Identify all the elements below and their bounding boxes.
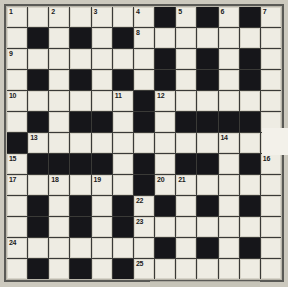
grid-cell[interactable]: 12 bbox=[155, 91, 175, 111]
grid-cell[interactable] bbox=[28, 238, 48, 258]
grid-cell[interactable] bbox=[261, 49, 281, 69]
grid-cell[interactable] bbox=[261, 238, 281, 258]
grid-cell[interactable]: 22 bbox=[134, 196, 154, 216]
grid-cell[interactable] bbox=[219, 238, 239, 258]
grid-cell[interactable]: 11 bbox=[113, 91, 133, 111]
grid-cell[interactable] bbox=[240, 28, 260, 48]
grid-cell[interactable] bbox=[240, 175, 260, 195]
grid-cell[interactable] bbox=[49, 196, 69, 216]
grid-cell[interactable] bbox=[197, 259, 217, 279]
grid-cell[interactable] bbox=[113, 112, 133, 132]
grid-cell[interactable] bbox=[197, 91, 217, 111]
grid-cell[interactable]: 3 bbox=[92, 7, 112, 27]
grid-cell[interactable] bbox=[261, 70, 281, 90]
grid-cell[interactable]: 2 bbox=[49, 7, 69, 27]
grid-cell[interactable] bbox=[197, 133, 217, 153]
grid-cell[interactable] bbox=[28, 49, 48, 69]
grid-cell[interactable] bbox=[155, 112, 175, 132]
grid-cell[interactable] bbox=[155, 259, 175, 279]
grid-cell[interactable]: 25 bbox=[134, 259, 154, 279]
grid-cell[interactable] bbox=[92, 70, 112, 90]
grid-cell[interactable]: 4 bbox=[134, 7, 154, 27]
grid-cell[interactable] bbox=[261, 196, 281, 216]
grid-cell[interactable] bbox=[92, 28, 112, 48]
grid-cell[interactable]: 20 bbox=[155, 175, 175, 195]
grid-cell[interactable] bbox=[240, 133, 260, 153]
grid-cell[interactable] bbox=[176, 196, 196, 216]
grid-cell[interactable] bbox=[49, 28, 69, 48]
grid-cell[interactable] bbox=[49, 112, 69, 132]
grid-cell[interactable] bbox=[92, 196, 112, 216]
grid-cell[interactable] bbox=[92, 238, 112, 258]
grid-cell[interactable] bbox=[92, 217, 112, 237]
grid-cell[interactable]: 7 bbox=[261, 7, 281, 27]
grid-cell[interactable] bbox=[49, 91, 69, 111]
grid-cell[interactable] bbox=[176, 28, 196, 48]
grid-cell[interactable] bbox=[113, 238, 133, 258]
grid-cell[interactable] bbox=[261, 217, 281, 237]
grid-cell[interactable] bbox=[155, 154, 175, 174]
grid-cell[interactable] bbox=[176, 91, 196, 111]
grid-cell[interactable] bbox=[49, 133, 69, 153]
grid-cell[interactable] bbox=[113, 133, 133, 153]
grid-cell[interactable]: 10 bbox=[7, 91, 27, 111]
grid-cell[interactable]: 9 bbox=[7, 49, 27, 69]
grid-cell[interactable] bbox=[7, 70, 27, 90]
grid-cell[interactable] bbox=[155, 133, 175, 153]
grid-cell[interactable] bbox=[261, 91, 281, 111]
grid-cell[interactable] bbox=[49, 49, 69, 69]
grid-cell[interactable] bbox=[219, 28, 239, 48]
grid-cell[interactable]: 24 bbox=[7, 238, 27, 258]
grid-cell[interactable]: 6 bbox=[219, 7, 239, 27]
grid-cell[interactable] bbox=[49, 70, 69, 90]
grid-cell[interactable] bbox=[240, 91, 260, 111]
grid-cell[interactable] bbox=[70, 175, 90, 195]
grid-cell[interactable] bbox=[134, 70, 154, 90]
grid-cell[interactable] bbox=[176, 70, 196, 90]
grid-cell[interactable] bbox=[155, 28, 175, 48]
grid-cell[interactable] bbox=[49, 238, 69, 258]
grid-cell[interactable]: 1 bbox=[7, 7, 27, 27]
grid-cell[interactable] bbox=[28, 91, 48, 111]
grid-cell[interactable] bbox=[92, 49, 112, 69]
grid-cell[interactable] bbox=[219, 175, 239, 195]
grid-cell[interactable] bbox=[92, 91, 112, 111]
grid-cell[interactable] bbox=[219, 70, 239, 90]
crossword-grid[interactable]: 1234567891011121314151617181920212223242… bbox=[7, 7, 281, 279]
grid-cell[interactable]: 19 bbox=[92, 175, 112, 195]
grid-cell[interactable] bbox=[134, 49, 154, 69]
grid-cell[interactable] bbox=[92, 259, 112, 279]
grid-cell[interactable] bbox=[7, 259, 27, 279]
grid-cell[interactable]: 18 bbox=[49, 175, 69, 195]
grid-cell[interactable] bbox=[70, 238, 90, 258]
grid-cell[interactable]: 21 bbox=[176, 175, 196, 195]
grid-cell[interactable] bbox=[197, 217, 217, 237]
grid-cell[interactable] bbox=[176, 238, 196, 258]
grid-cell[interactable] bbox=[92, 133, 112, 153]
grid-cell[interactable] bbox=[7, 112, 27, 132]
grid-cell[interactable] bbox=[219, 49, 239, 69]
grid-cell[interactable] bbox=[28, 175, 48, 195]
grid-cell[interactable] bbox=[70, 49, 90, 69]
grid-cell[interactable]: 14 bbox=[219, 133, 239, 153]
grid-cell[interactable] bbox=[134, 238, 154, 258]
grid-cell[interactable] bbox=[176, 217, 196, 237]
grid-cell[interactable] bbox=[7, 217, 27, 237]
grid-cell[interactable] bbox=[176, 259, 196, 279]
grid-cell[interactable]: 23 bbox=[134, 217, 154, 237]
grid-cell[interactable] bbox=[70, 7, 90, 27]
grid-cell[interactable] bbox=[261, 175, 281, 195]
grid-cell[interactable]: 5 bbox=[176, 7, 196, 27]
grid-cell[interactable] bbox=[113, 175, 133, 195]
grid-cell[interactable] bbox=[219, 259, 239, 279]
grid-cell[interactable] bbox=[70, 91, 90, 111]
grid-cell[interactable] bbox=[134, 133, 154, 153]
grid-cell[interactable] bbox=[113, 49, 133, 69]
grid-cell[interactable] bbox=[70, 133, 90, 153]
grid-cell[interactable] bbox=[155, 217, 175, 237]
grid-cell[interactable] bbox=[219, 196, 239, 216]
grid-cell[interactable] bbox=[113, 154, 133, 174]
grid-cell[interactable] bbox=[49, 259, 69, 279]
grid-cell[interactable] bbox=[28, 7, 48, 27]
grid-cell[interactable] bbox=[197, 175, 217, 195]
